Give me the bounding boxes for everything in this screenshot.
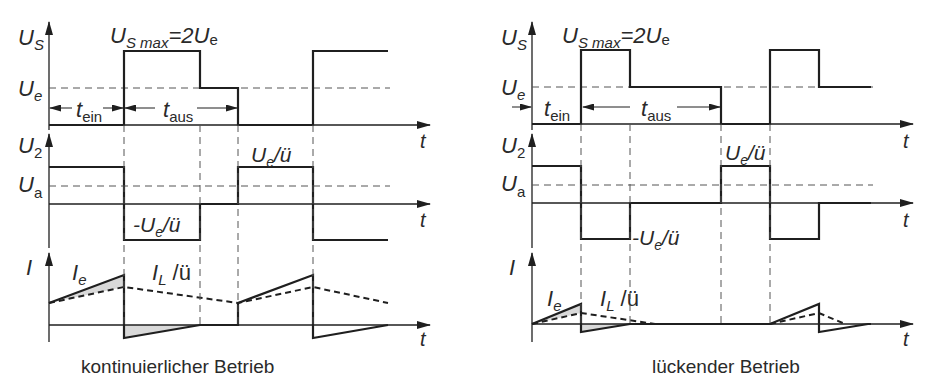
- us-axis-label: US: [501, 25, 527, 53]
- il-label: IL /ü: [600, 286, 639, 314]
- u2-axis-label: U2: [501, 133, 525, 161]
- u2-t-label: t: [903, 209, 910, 231]
- ue-label: Ue: [501, 75, 525, 103]
- i-axis-label: I: [26, 255, 32, 280]
- u2-positive-label: Ue/ü: [725, 141, 766, 168]
- caption-discontinuous: lückender Betrieb: [652, 356, 800, 377]
- ie-label: Ie: [547, 286, 561, 314]
- us-max-label: US max=2Ue: [562, 23, 670, 51]
- ie-waveform: [49, 275, 388, 338]
- tein-label: tein: [76, 97, 102, 125]
- us-plot: US US max=2Ue Ue tein taus t: [501, 22, 913, 152]
- panel-discontinuous: US US max=2Ue Ue tein taus t U2 Ua Ue/ü …: [501, 22, 913, 377]
- u2-t-label: t: [420, 209, 427, 231]
- current-plot: I Ie IL /ü t: [509, 253, 913, 350]
- caption-continuous: kontinuierlicher Betrieb: [81, 356, 274, 377]
- il-waveform: [532, 313, 845, 324]
- us-t-label: t: [420, 130, 427, 152]
- converter-waveform-diagram: US US max=2Ue Ue tein taus t U2 Ua Ue/ü …: [0, 0, 929, 392]
- ua-label: Ua: [18, 172, 43, 201]
- u2-plot: U2 Ua Ue/ü -Ue/ü t: [18, 133, 430, 248]
- il-label: IL /ü: [152, 260, 191, 288]
- tein-label: tein: [544, 96, 570, 124]
- us-plot: US US max=2Ue Ue tein taus t: [18, 22, 430, 152]
- i-axis-label: I: [509, 255, 515, 280]
- u2-negative-label: -Ue/ü: [133, 213, 181, 240]
- u2-axis-label: U2: [18, 133, 42, 161]
- u2-positive-label: Ue/ü: [251, 143, 292, 170]
- i-t-label: t: [420, 328, 427, 350]
- ua-label: Ua: [501, 171, 526, 200]
- u2-plot: U2 Ua Ue/ü -Ue/ü t: [501, 133, 913, 253]
- ue-label: Ue: [18, 76, 42, 104]
- panel-continuous: US US max=2Ue Ue tein taus t U2 Ua Ue/ü …: [18, 22, 430, 377]
- taus-label: taus: [641, 96, 671, 124]
- current-plot: I Ie IL /ü t: [26, 253, 430, 350]
- u2-negative-label: -Ue/ü: [632, 226, 680, 253]
- us-t-label: t: [903, 130, 910, 152]
- i-t-label: t: [903, 328, 910, 350]
- us-max-label: US max=2Ue: [110, 23, 218, 51]
- taus-label: taus: [163, 97, 193, 125]
- ie-label: Ie: [72, 260, 86, 288]
- us-axis-label: US: [18, 25, 44, 53]
